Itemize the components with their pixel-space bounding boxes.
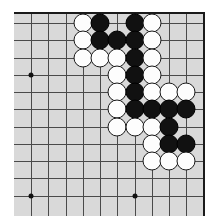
white-stone-c7-r7	[142, 134, 161, 153]
grid-line-vertical-0	[31, 12, 32, 216]
white-stone-c7-r3	[142, 65, 161, 84]
white-stone-c7-r1	[142, 31, 161, 50]
black-stone-c4-r0	[91, 14, 110, 33]
white-stone-c3-r0	[73, 14, 92, 33]
white-stone-c9-r8	[177, 152, 196, 171]
black-stone-c8-r6	[160, 117, 179, 136]
go-board-figure	[0, 0, 215, 216]
white-stone-c5-r6	[108, 117, 127, 136]
black-stone-c5-r1	[108, 31, 127, 50]
board-edge-top	[14, 12, 205, 14]
black-stone-c6-r1	[125, 31, 144, 50]
white-stone-c7-r4	[142, 83, 161, 102]
grid-line-vertical-2	[66, 12, 67, 216]
white-stone-c9-r4	[177, 83, 196, 102]
white-stone-c5-r5	[108, 100, 127, 119]
white-stone-c7-r6	[142, 117, 161, 136]
white-stone-c5-r2	[108, 48, 127, 67]
black-stone-c9-r5	[177, 100, 196, 119]
black-stone-c6-r3	[125, 65, 144, 84]
white-stone-c3-r1	[73, 31, 92, 50]
white-stone-c4-r2	[91, 48, 110, 67]
black-stone-c6-r0	[125, 14, 144, 33]
white-stone-c7-r0	[142, 14, 161, 33]
white-stone-c8-r8	[160, 152, 179, 171]
board-edge-right	[203, 12, 205, 216]
grid-line-horizontal-10	[14, 196, 203, 197]
white-stone-c7-r8	[142, 152, 161, 171]
white-stone-c8-r4	[160, 83, 179, 102]
white-stone-c5-r4	[108, 83, 127, 102]
black-stone-c6-r2	[125, 48, 144, 67]
black-stone-c6-r4	[125, 83, 144, 102]
white-stone-c7-r2	[142, 48, 161, 67]
black-stone-c4-r1	[91, 31, 110, 50]
black-stone-c8-r5	[160, 100, 179, 119]
black-stone-c9-r7	[177, 134, 196, 153]
star-point-center-lower	[132, 193, 137, 198]
white-stone-c5-r3	[108, 65, 127, 84]
black-stone-c8-r7	[160, 134, 179, 153]
black-stone-c7-r5	[142, 100, 161, 119]
star-point-left-lower	[29, 193, 34, 198]
star-point-left-upper	[29, 72, 34, 77]
black-stone-c6-r5	[125, 100, 144, 119]
grid-line-horizontal-9	[14, 178, 203, 179]
white-stone-c3-r2	[73, 48, 92, 67]
grid-line-vertical-1	[48, 12, 49, 216]
white-stone-c6-r6	[125, 117, 144, 136]
